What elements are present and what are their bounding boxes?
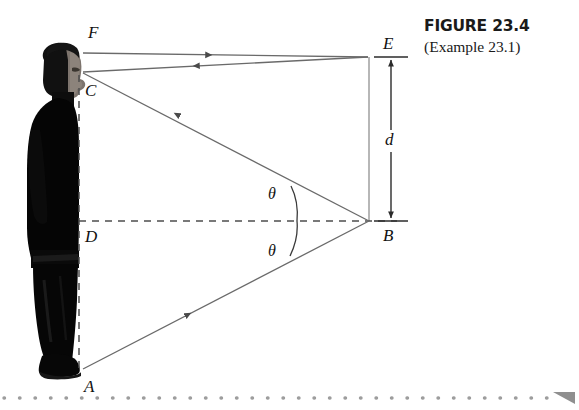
- label-point-D: D: [85, 228, 97, 245]
- ray-B-to-C: [83, 73, 369, 221]
- label-point-F: F: [88, 24, 98, 41]
- figure-caption-title: FIGURE 23.4: [424, 18, 574, 36]
- label-point-B: B: [383, 227, 393, 244]
- label-point-C: C: [85, 82, 96, 99]
- figure-container: F E C D A B d θ θ FIGURE 23.4 (Example 2…: [0, 0, 579, 410]
- label-distance-d: d: [385, 131, 394, 148]
- figure-caption: FIGURE 23.4 (Example 23.1): [424, 18, 574, 56]
- ray-E-to-eye: [83, 57, 368, 72]
- person-silhouette: [27, 43, 85, 380]
- ray-A-to-B: [83, 221, 369, 369]
- ray-B-to-C-arrow: [174, 113, 235, 145]
- angle-arc-upper: [291, 186, 297, 221]
- bottom-rule-end-marker: [553, 392, 575, 404]
- figure-diagram: [0, 0, 579, 410]
- angle-arc-lower: [290, 221, 297, 256]
- figure-caption-subtitle: (Example 23.1): [424, 37, 574, 56]
- ray-F-to-E: [83, 53, 368, 57]
- label-point-A: A: [84, 378, 94, 395]
- label-point-E: E: [383, 35, 393, 52]
- label-theta-upper: θ: [268, 186, 276, 202]
- label-theta-lower: θ: [268, 243, 276, 259]
